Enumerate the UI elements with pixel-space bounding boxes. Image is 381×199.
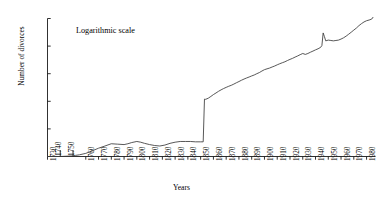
- axis-lines: [48, 19, 376, 157]
- plot-area: [0, 0, 381, 199]
- chart-container: Number of divorces 10000010000100010010 …: [0, 0, 381, 199]
- data-line-number-of-divorces: [48, 17, 373, 156]
